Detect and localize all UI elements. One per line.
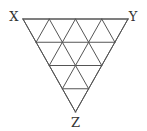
vertex-label-x: X (9, 9, 19, 24)
triangle-grid-lines (23, 19, 128, 112)
grid-line-parallel-yz (62, 19, 101, 89)
grid-line-parallel-xz (102, 19, 115, 42)
vertex-label-y: Y (128, 9, 138, 24)
vertex-label-z: Z (71, 115, 80, 130)
grid-line-parallel-yz (36, 19, 49, 42)
grid-line-parallel-xz (49, 19, 88, 89)
triangle-grid-diagram: X Y Z (0, 0, 147, 131)
